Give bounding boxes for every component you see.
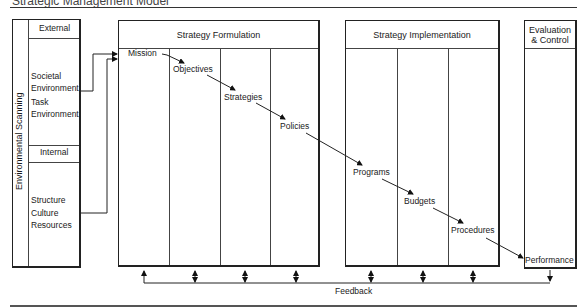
bottom-rule (10, 305, 577, 307)
connector-arrows (0, 0, 587, 308)
